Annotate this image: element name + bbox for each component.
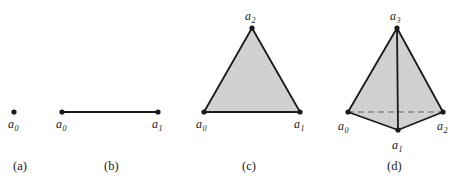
panel-c-vertex-a1: [297, 109, 302, 114]
vertex-label-base: a: [245, 9, 251, 23]
panel-c-face-0: [204, 28, 300, 112]
panel-b-vertex-a0: [59, 109, 64, 114]
vertex-label-base: a: [196, 117, 202, 131]
panel-c-vertex-label-a2: a2: [245, 10, 255, 22]
vertex-label-subscript: 3: [397, 16, 401, 25]
vertex-label-base: a: [390, 9, 396, 23]
vertex-label-base: a: [392, 138, 398, 152]
vertex-label-base: a: [56, 117, 62, 131]
panel-d-edge-2: [397, 28, 398, 130]
panel-d-vertex-a2: [440, 109, 445, 114]
panel-b: [59, 109, 160, 114]
panel-a-vertex-label-a0: a0: [8, 118, 18, 130]
vertex-label-base: a: [8, 117, 14, 131]
panel-a-caption: (a): [13, 160, 27, 173]
panel-d-vertex-a0: [345, 109, 350, 114]
panel-c-caption: (c): [242, 160, 256, 173]
panel-b-vertex-label-a1: a1: [152, 118, 162, 130]
vertex-label-base: a: [152, 117, 158, 131]
vertex-label-subscript: 2: [252, 16, 256, 25]
panel-d-vertex-label-a0: a0: [338, 120, 348, 132]
panel-c-vertex-a0: [201, 109, 206, 114]
vertex-label-subscript: 0: [15, 124, 19, 133]
simplex-figure: a0(a)a0a1(b)a0a1a2(c)a0a1a2a3(d): [0, 0, 458, 194]
panel-b-vertex-label-a0: a0: [56, 118, 66, 130]
panel-d-caption: (d): [387, 160, 402, 173]
panel-c-vertex-label-a1: a1: [294, 118, 304, 130]
vertex-label-subscript: 1: [301, 124, 305, 133]
panel-b-caption: (b): [104, 160, 119, 173]
panel-c: [201, 25, 302, 114]
vertex-label-subscript: 2: [444, 126, 448, 135]
vertex-label-base: a: [437, 119, 443, 133]
panel-a: [11, 109, 16, 114]
panel-c-vertex-a2: [249, 25, 254, 30]
panel-c-vertex-label-a0: a0: [196, 118, 206, 130]
panel-b-vertex-a1: [155, 109, 160, 114]
panel-d-vertex-label-a3: a3: [390, 10, 400, 22]
panel-d-vertex-label-a2: a2: [437, 120, 447, 132]
vertex-label-subscript: 1: [159, 124, 163, 133]
panel-d-vertex-label-a1: a1: [392, 139, 402, 151]
panel-a-vertex-a0: [11, 109, 16, 114]
panel-d-vertex-a3: [394, 25, 399, 30]
vertex-label-base: a: [338, 119, 344, 133]
panel-d: [345, 25, 445, 132]
vertex-label-subscript: 0: [345, 126, 349, 135]
vertex-label-base: a: [294, 117, 300, 131]
vertex-label-subscript: 1: [399, 145, 403, 154]
vertex-label-subscript: 0: [203, 124, 207, 133]
vertex-label-subscript: 0: [63, 124, 67, 133]
panel-d-vertex-a1: [395, 127, 400, 132]
